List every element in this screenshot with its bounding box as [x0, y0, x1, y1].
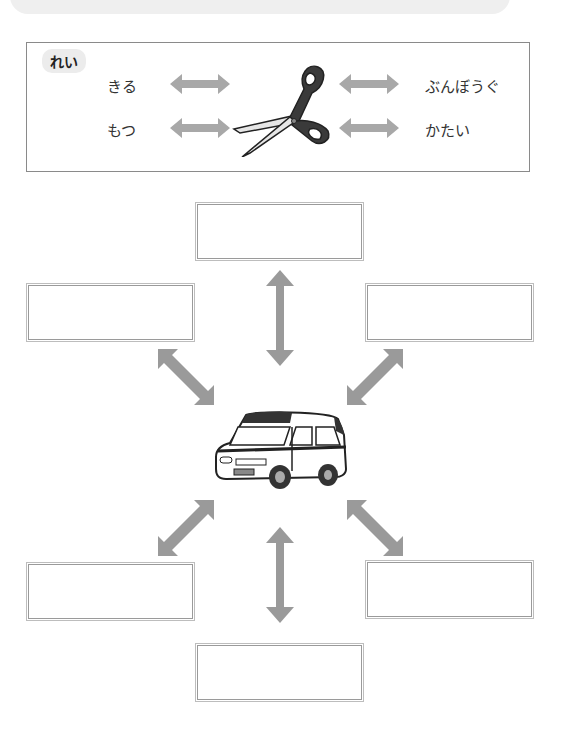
double-arrow-icon — [339, 117, 399, 139]
answer-box-lower-left[interactable] — [28, 564, 193, 619]
header-band — [10, 0, 510, 14]
diagonal-double-arrow-icon — [347, 349, 403, 405]
example-right-word-2: かたい — [425, 119, 470, 140]
answer-box-lower-right[interactable] — [367, 562, 532, 617]
scissors-icon — [232, 61, 332, 157]
answer-box-upper-right[interactable] — [367, 285, 532, 340]
double-arrow-icon — [170, 117, 230, 139]
answer-box-bottom[interactable] — [197, 645, 362, 700]
van-icon — [210, 405, 350, 495]
example-panel: れい きる もつ ぶんぼうぐ かたい — [26, 42, 530, 172]
answer-box-upper-left[interactable] — [28, 285, 193, 340]
example-left-word-1: きる — [107, 75, 137, 96]
double-arrow-icon — [170, 73, 230, 95]
example-right-word-1: ぶんぼうぐ — [425, 75, 500, 96]
vertical-double-arrow-icon — [266, 527, 294, 623]
answer-box-top[interactable] — [197, 204, 362, 259]
example-left-word-2: もつ — [107, 119, 136, 140]
diagonal-double-arrow-icon — [347, 500, 403, 556]
vertical-double-arrow-icon — [266, 270, 294, 366]
diagonal-double-arrow-icon — [158, 349, 214, 405]
diagonal-double-arrow-icon — [158, 500, 214, 556]
double-arrow-icon — [339, 73, 399, 95]
example-label: れい — [42, 49, 86, 73]
